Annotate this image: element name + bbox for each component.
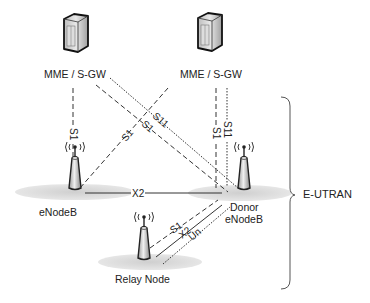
donor-enodeb-label-line2: eNodeB [225, 213, 263, 225]
relay-node-label: Relay Node [115, 273, 170, 285]
link-label-s1-cross-a: S1 [119, 127, 136, 144]
link-label-x2-horizontal: X2 [132, 188, 145, 199]
link-label-s1-left-vertical: S1 [68, 128, 79, 141]
server-icon-right [198, 13, 222, 51]
enodeb-label: eNodeB [39, 206, 77, 218]
link-label-s11-right-vertical: S11 [222, 121, 233, 138]
link-label-s1-right-vertical: S1 [211, 127, 222, 140]
mme-sgw-right-label: MME / S-GW [180, 68, 242, 80]
antenna-icon-enodeb [66, 142, 85, 190]
mme-sgw-left-label: MME / S-GW [44, 68, 106, 80]
diagram-canvas: S1 S1 S11 S1 S1 S11 X2 S1 X2 Un [0, 0, 370, 303]
antenna-icon-donor-enodeb [235, 142, 254, 190]
link-s1-relay-donor [150, 200, 218, 248]
donor-enodeb-label-line1: Donor [230, 201, 259, 213]
antenna-icon-relay-node [135, 212, 154, 260]
e-utran-label: E-UTRAN [303, 188, 352, 200]
e-utran-relay-architecture-diagram: S1 S1 S11 S1 S1 S11 X2 S1 X2 Un MME / S-… [0, 0, 370, 303]
server-icon-left [64, 14, 88, 52]
link-s1-left-mme-donor [96, 85, 228, 192]
